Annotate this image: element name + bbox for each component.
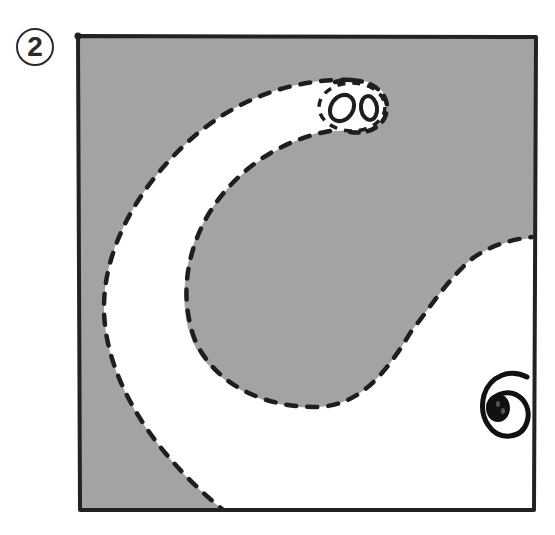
illustration-canvas: 2 — [0, 0, 555, 535]
illustration-svg — [0, 0, 555, 535]
corner-dot — [75, 33, 82, 40]
